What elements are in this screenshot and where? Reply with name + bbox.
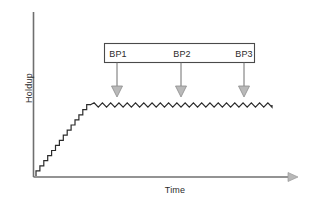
y-axis-label: Holdup [24, 58, 35, 118]
backpulse-arrow-2 [176, 63, 187, 98]
backpulse-label-bp1: BP1 [98, 49, 138, 59]
plot-canvas [0, 0, 310, 205]
x-axis-label: Time [145, 185, 205, 195]
holdup-curve [36, 103, 272, 176]
backpulse-label-bp2: BP2 [162, 49, 202, 59]
holdup-vs-time-figure: Holdup Time BP1 BP2 BP3 [0, 0, 310, 205]
backpulse-label-bp3: BP3 [224, 49, 264, 59]
x-axis-arrow-icon [288, 173, 298, 182]
backpulse-arrows-group [112, 63, 250, 98]
backpulse-arrow-1 [112, 63, 123, 98]
backpulse-arrow-3 [239, 63, 250, 98]
